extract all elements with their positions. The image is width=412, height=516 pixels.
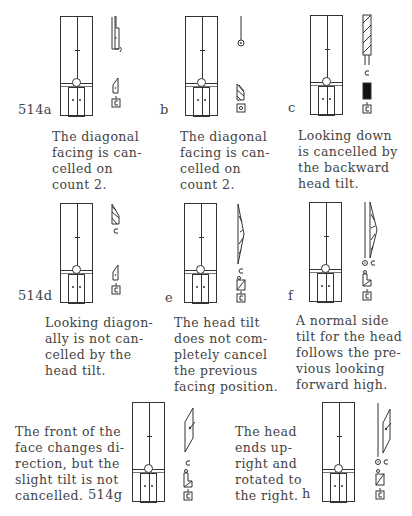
- labanotation-staff: [310, 15, 343, 115]
- head-rotation-symbol: [184, 402, 202, 502]
- head-tilt-symbol: [112, 204, 126, 304]
- figure-caption: Looking diagon- ally is not can- celled …: [45, 315, 153, 379]
- figure-label: e: [165, 290, 173, 305]
- labanotation-staff: [185, 16, 218, 116]
- labanotation-staff: [322, 402, 355, 502]
- figure-label: 514a: [18, 102, 52, 117]
- figure-caption: The diagonal facing is can- celled on co…: [52, 129, 142, 193]
- figure-label: 514g: [88, 487, 122, 502]
- figure-caption: A normal side tilt for the head follows …: [296, 313, 402, 393]
- figure-caption: The diagonal facing is can- celled on co…: [180, 129, 270, 193]
- figure-caption: The head tilt does not com- pletely canc…: [174, 315, 278, 395]
- figure-label: f: [288, 288, 293, 303]
- labanotation-staff: [184, 203, 217, 303]
- figure-label: 514d: [18, 288, 52, 303]
- figure-label: b: [160, 102, 169, 117]
- labanotation-staff: [60, 16, 93, 116]
- head-facing-symbol: [237, 16, 249, 116]
- head-tilt-symbol: [237, 204, 251, 304]
- labanotation-staff: [309, 202, 342, 302]
- labanotation-staff: [60, 203, 93, 303]
- head-rotation-symbol: [376, 403, 396, 503]
- head-facing-symbol: [112, 16, 128, 116]
- head-tilt-symbol: [363, 15, 375, 115]
- labanotation-staff: [132, 402, 165, 502]
- figure-caption: The head ends up- right and rotated to t…: [235, 424, 302, 504]
- figure-caption: Looking down is cancelled by the backwar…: [298, 128, 398, 192]
- figure-label: c: [288, 100, 296, 115]
- figure-label: h: [302, 486, 311, 501]
- head-tilt-symbol: [363, 202, 381, 302]
